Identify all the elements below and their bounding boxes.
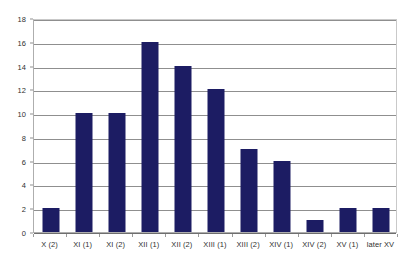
bar-slot [365,20,398,232]
bar-slot [266,20,299,232]
bar[interactable] [42,208,59,232]
x-tick-label: later XV [367,240,394,249]
plot-area [33,19,397,233]
y-tick-label-18: 18 [17,15,26,24]
bar-slot [199,20,232,232]
bar[interactable] [274,161,291,232]
x-tick-mark [66,234,67,237]
bar[interactable] [340,208,357,232]
bar-slot [34,20,67,232]
x-tick-label: XI (1) [73,240,92,249]
bar-slot [133,20,166,232]
bar-slot [67,20,100,232]
x-tick-mark [331,234,332,237]
bar[interactable] [141,42,158,232]
x-tick-label: XII (1) [138,240,159,249]
x-tick-label: XII (2) [171,240,192,249]
x-tick-mark [265,234,266,237]
bar-slot [166,20,199,232]
y-tick-label-14: 14 [17,62,26,71]
x-tick-label: X (2) [41,240,58,249]
y-tick-label-10: 10 [17,110,26,119]
y-tick-label-4: 4 [22,181,26,190]
x-axis: X (2)XI (1)XI (2)XII (1)XII (2)XIII (1)X… [33,240,397,260]
bar[interactable] [307,220,324,232]
bar[interactable] [241,149,258,232]
bar-slot [100,20,133,232]
bars-layer [34,20,396,232]
x-tick-mark [232,234,233,237]
y-tick-label-16: 16 [17,38,26,47]
bar[interactable] [207,89,224,232]
y-tick-label-0: 0 [22,229,26,238]
x-tick-mark [397,234,398,237]
bar-slot [299,20,332,232]
bar[interactable] [373,208,390,232]
bar-chart: 024681012141618 X (2)XI (1)XI (2)XII (1)… [0,0,416,263]
y-tick-label-12: 12 [17,86,26,95]
x-tick-mark [165,234,166,237]
x-tick-label: XIII (1) [203,240,226,249]
x-tick-label: XIII (2) [236,240,259,249]
x-tick-mark [198,234,199,237]
x-tick-mark [33,234,34,237]
bar[interactable] [75,113,92,232]
bar-slot [233,20,266,232]
y-tick-label-8: 8 [22,133,26,142]
x-tick-label: XI (2) [106,240,125,249]
x-tick-mark [298,234,299,237]
y-tick-label-6: 6 [22,157,26,166]
bar[interactable] [108,113,125,232]
x-tick-mark [132,234,133,237]
gridline-0 [34,233,396,234]
x-tick-label: XV (1) [336,240,358,249]
x-tick-mark [364,234,365,237]
x-tick-label: XIV (2) [302,240,326,249]
x-tick-label: XIV (1) [269,240,293,249]
y-tick-label-2: 2 [22,205,26,214]
x-tick-mark [99,234,100,237]
y-axis: 024681012141618 [0,0,33,263]
bar-slot [332,20,365,232]
bar[interactable] [174,66,191,232]
